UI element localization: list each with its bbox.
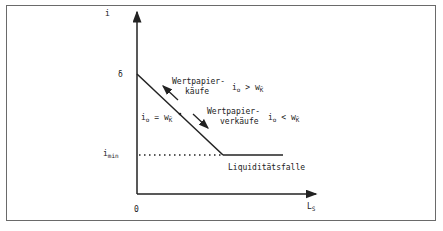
intercept-label: δ [118, 71, 123, 79]
purchases-label-line2: käufe [185, 88, 225, 96]
i-min-label: imin [103, 150, 119, 159]
purchases-label-line1: Wertpapier- [172, 78, 225, 86]
cond-greater-rhs-sub: K̄ [260, 86, 264, 93]
cond-greater-op: > [245, 83, 250, 92]
origin-label: 0 [134, 206, 139, 214]
condition-equal: io = wK̄ [141, 114, 172, 123]
sales-label: Wertpapier- verkäufe [207, 108, 260, 126]
cond-equal-lhs-sub: o [146, 116, 150, 123]
y-axis-label: i [105, 10, 110, 18]
sales-arrow-icon [193, 114, 208, 128]
x-axis-subscript: S [312, 205, 316, 212]
purchases-label: Wertpapier- käufe [172, 78, 225, 96]
liquidity-trap-label: Liquiditätsfalle [228, 164, 305, 172]
cond-less-op: < [281, 113, 286, 122]
cond-greater-lhs-sub: o [237, 86, 241, 93]
cond-equal-op: = [154, 113, 159, 122]
sales-label-line2: verkäufe [220, 118, 260, 126]
cond-less-rhs-sub: K̄ [296, 116, 300, 123]
i-min-subscript: min [108, 152, 119, 159]
cond-equal-rhs-sub: K̄ [169, 116, 173, 123]
x-axis-label: LS [307, 203, 315, 212]
condition-less: io < wK̄ [268, 114, 299, 123]
equilibrium-point [179, 113, 182, 116]
cond-less-lhs-sub: o [273, 116, 277, 123]
sales-label-line1: Wertpapier- [207, 108, 260, 116]
condition-greater: io > wK̄ [232, 84, 263, 93]
